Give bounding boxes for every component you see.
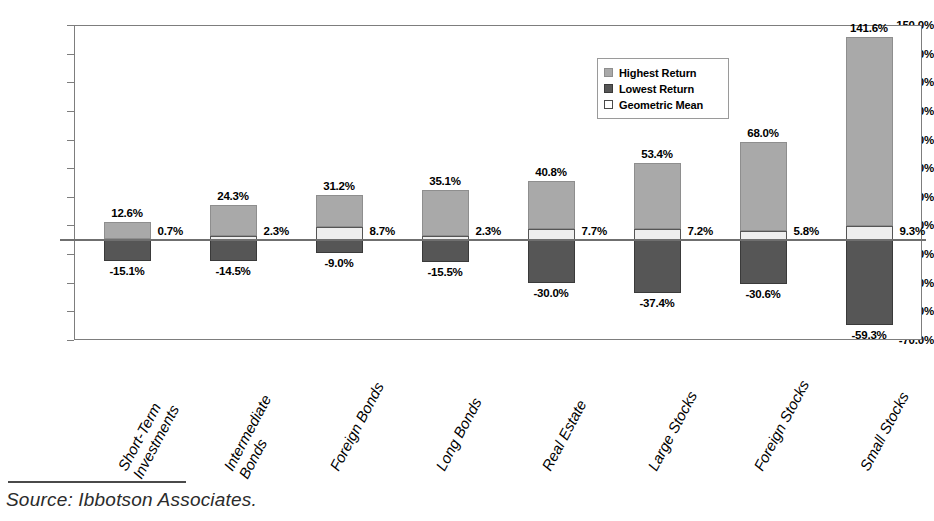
- bar-segment-highest-return: [316, 195, 363, 227]
- data-label-geometric-mean: 5.8%: [794, 225, 819, 237]
- source-note: Source: Ibbotson Associates.: [6, 489, 257, 511]
- y-axis-tick-mark: [67, 168, 74, 169]
- x-axis-label-small-stocks: Small Stocks: [857, 389, 913, 473]
- y-axis-tick-mark: [67, 197, 74, 198]
- x-axis-label-line: Foreign Bonds: [327, 380, 388, 474]
- x-axis-label-long-bonds: Long Bonds: [433, 395, 485, 474]
- y-axis-tick-mark: [67, 254, 74, 255]
- legend-item-lowest-return: Lowest Return: [604, 81, 722, 96]
- data-label-geometric-mean: 2.3%: [476, 225, 501, 237]
- bar-segment-lowest-return: [422, 240, 469, 262]
- data-label-highest-return: 12.6%: [111, 207, 143, 219]
- data-label-lowest-return: -30.6%: [745, 288, 780, 300]
- bar-segment-lowest-return: [634, 240, 681, 294]
- data-label-lowest-return: -15.1%: [109, 265, 144, 277]
- data-label-highest-return: 35.1%: [429, 175, 461, 187]
- x-axis-label-line: Small Stocks: [857, 389, 913, 473]
- data-label-lowest-return: -9.0%: [324, 257, 353, 269]
- bar-segment-highest-return: [634, 163, 681, 229]
- y-axis-tick-mark: [67, 283, 74, 284]
- legend-label-highest-return: Highest Return: [619, 67, 696, 79]
- bar-segment-lowest-return: [846, 240, 893, 325]
- y-axis-tick-mark: [67, 140, 74, 141]
- legend-item-highest-return: Highest Return: [604, 65, 722, 80]
- data-label-geometric-mean: 7.7%: [582, 225, 607, 237]
- x-axis-label-line: Foreign Stocks: [751, 378, 813, 474]
- y-axis-tick-mark: [67, 25, 74, 26]
- data-label-lowest-return: -37.4%: [639, 297, 674, 309]
- y-axis-tick-mark: [67, 311, 74, 312]
- y-axis-tick-mark: [67, 82, 74, 83]
- bar-segment-lowest-return: [316, 240, 363, 253]
- x-axis-label-short-term-investments: Short-TermInvestments: [115, 395, 183, 482]
- plot-area: [74, 25, 922, 340]
- y-axis-tick-mark: [67, 340, 74, 341]
- x-axis-label-foreign-bonds: Foreign Bonds: [327, 380, 388, 474]
- data-label-geometric-mean: 8.7%: [370, 225, 395, 237]
- bar-segment-highest-return: [846, 37, 893, 226]
- data-label-geometric-mean: 2.3%: [264, 225, 289, 237]
- x-axis-label-line: Long Bonds: [433, 395, 485, 474]
- data-label-geometric-mean: 0.7%: [158, 225, 183, 237]
- bar-segment-lowest-return: [740, 240, 787, 284]
- data-label-highest-return: 53.4%: [641, 148, 673, 160]
- data-label-lowest-return: -30.0%: [533, 287, 568, 299]
- legend-item-geometric-mean: Geometric Mean: [604, 97, 722, 112]
- data-label-lowest-return: -14.5%: [215, 265, 250, 277]
- data-label-lowest-return: -15.5%: [427, 266, 462, 278]
- x-axis-label-line: Real Estate: [539, 398, 590, 474]
- bar-segment-highest-return: [740, 142, 787, 231]
- bar-segment-geometric-mean: [846, 226, 893, 239]
- legend-swatch-highest-return-icon: [604, 68, 613, 77]
- bar-segment-geometric-mean: [316, 227, 363, 239]
- source-divider: [8, 481, 186, 483]
- data-label-geometric-mean: 7.2%: [688, 225, 713, 237]
- x-axis-label-large-stocks: Large Stocks: [645, 389, 701, 474]
- data-label-highest-return: 24.3%: [217, 190, 249, 202]
- bar-segment-highest-return: [104, 222, 151, 239]
- data-label-highest-return: 31.2%: [323, 180, 355, 192]
- x-axis-label-intermediate-bonds: IntermediateBonds: [221, 392, 290, 481]
- legend-label-lowest-return: Lowest Return: [619, 83, 694, 95]
- bar-segment-highest-return: [210, 205, 257, 237]
- y-axis-tick-mark: [67, 54, 74, 55]
- zero-baseline: [60, 239, 926, 241]
- data-label-geometric-mean: 9.3%: [900, 225, 925, 237]
- data-label-highest-return: 141.6%: [850, 22, 888, 34]
- bar-segment-lowest-return: [104, 240, 151, 262]
- legend-swatch-lowest-return-icon: [604, 84, 613, 93]
- bar-segment-highest-return: [422, 190, 469, 237]
- data-label-highest-return: 40.8%: [535, 166, 567, 178]
- legend-label-geometric-mean: Geometric Mean: [619, 99, 703, 111]
- x-axis-label-foreign-stocks: Foreign Stocks: [751, 378, 813, 474]
- bar-segment-lowest-return: [528, 240, 575, 283]
- bar-segment-lowest-return: [210, 240, 257, 261]
- x-axis-label-line: Large Stocks: [645, 389, 701, 474]
- bar-segment-highest-return: [528, 181, 575, 228]
- chart-container: 150.0%130.0%110.0%90.0%70.0%50.0%30.0%10…: [0, 0, 934, 521]
- legend-swatch-geometric-mean-icon: [604, 100, 613, 109]
- chart-legend: Highest Return Lowest Return Geometric M…: [597, 58, 729, 119]
- x-axis-label-real-estate: Real Estate: [539, 398, 590, 474]
- data-label-lowest-return: -59.3%: [851, 329, 886, 341]
- data-label-highest-return: 68.0%: [747, 127, 779, 139]
- y-axis-tick-mark: [67, 225, 74, 226]
- y-axis-tick-mark: [67, 111, 74, 112]
